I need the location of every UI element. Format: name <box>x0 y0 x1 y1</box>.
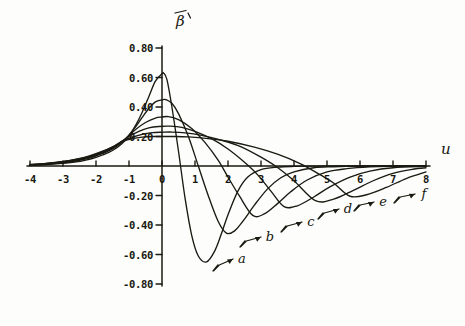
curve-label-b: b <box>266 229 274 244</box>
curve-label-a: a <box>238 251 246 266</box>
x-axis-label: u <box>441 140 451 158</box>
x-tick-label: 1 <box>192 173 198 185</box>
annotation-arrowhead-b <box>255 237 261 242</box>
data-curves <box>30 73 426 263</box>
y-tick-label: -0.60 <box>123 249 153 261</box>
chart-plot: -4-3-2-1012345678 0.800.600.400.20-0.20-… <box>0 0 465 326</box>
y-tick-label: -0.40 <box>123 219 153 231</box>
x-tick-label: 0 <box>159 173 165 185</box>
x-tick-label: 8 <box>423 173 429 185</box>
y-tick-label: -0.20 <box>123 190 153 202</box>
y-axis-label: β <box>175 11 191 31</box>
y-axis-label-text: β <box>175 12 185 30</box>
annotation-arrowhead-f <box>409 194 415 199</box>
annotation-arrowhead-c <box>296 222 302 227</box>
x-tick-label: 2 <box>225 173 231 185</box>
x-tick-label: -4 <box>24 173 36 185</box>
y-axis-prime-mark <box>188 13 191 18</box>
x-tick-label: -1 <box>123 173 135 185</box>
y-tick-label: 0.80 <box>129 42 153 54</box>
curve-label-d: d <box>344 201 352 216</box>
curve-label-c: c <box>307 214 315 229</box>
x-tick-label: -3 <box>57 173 69 185</box>
y-tick-label: 0.60 <box>129 72 153 84</box>
y-tick-label: -0.80 <box>123 278 153 290</box>
annotation-arrowhead-d <box>333 209 339 214</box>
annotation-arrowhead-e <box>368 202 374 207</box>
figure-container: -4-3-2-1012345678 0.800.600.400.20-0.20-… <box>0 0 465 326</box>
curve-annotations: abcdef <box>213 186 429 271</box>
x-tick-label: -2 <box>90 173 102 185</box>
axis-names: u β <box>175 11 451 159</box>
curve-label-f: f <box>421 186 429 201</box>
curve-label-e: e <box>379 194 387 209</box>
